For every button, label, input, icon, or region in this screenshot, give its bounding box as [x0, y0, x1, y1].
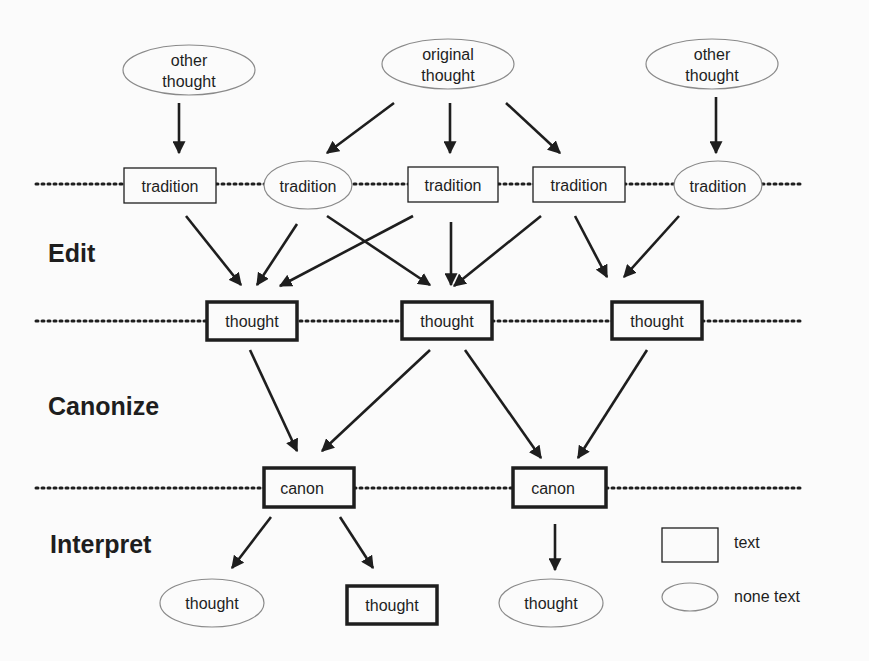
interpretation-node-3: thought	[499, 579, 603, 627]
interpretation-label: thought	[524, 595, 578, 612]
canon-label: canon	[280, 480, 324, 497]
source-label-line2: thought	[421, 67, 475, 84]
tradition-label: tradition	[551, 177, 608, 194]
canon-label: canon	[531, 480, 575, 497]
source-label-line2: thought	[162, 73, 216, 90]
arrow-icon	[322, 350, 430, 451]
source-label-line1: other	[694, 46, 731, 63]
arrow-icon	[327, 216, 430, 285]
arrow-icon	[465, 350, 541, 458]
tradition-node-3: tradition	[408, 167, 498, 202]
legend-rect-swatch	[662, 528, 718, 562]
thought-node-3: thought	[612, 302, 702, 339]
arrow-icon	[250, 350, 297, 451]
interpretation-label: thought	[185, 595, 239, 612]
canon-node-1: canon	[264, 468, 354, 507]
source-other-thought-left: other thought	[123, 45, 255, 95]
legend-ellipse-swatch	[662, 583, 718, 611]
arrow-icon	[624, 216, 679, 277]
thought-label: thought	[225, 313, 279, 330]
arrow-icon	[257, 224, 297, 285]
arrow-icon	[232, 517, 271, 568]
arrow-icon	[327, 103, 394, 153]
arrow-icon	[340, 517, 373, 568]
thought-label: thought	[630, 313, 684, 330]
legend-ellipse-label: none text	[734, 588, 800, 605]
source-label-line2: thought	[685, 67, 739, 84]
tradition-label: tradition	[690, 178, 747, 195]
source-label-line1: other	[171, 52, 208, 69]
tradition-node-4: tradition	[533, 167, 625, 202]
interpretation-node-1: thought	[160, 579, 264, 627]
stage-label-interpret: Interpret	[50, 530, 152, 558]
thought-node-2: thought	[402, 302, 492, 339]
arrow-icon	[186, 216, 241, 285]
source-label-line1: original	[422, 46, 474, 63]
arrow-icon	[575, 216, 607, 277]
tradition-label: tradition	[425, 177, 482, 194]
legend: text none text	[662, 528, 800, 611]
legend-rect-label: text	[734, 534, 760, 551]
arrow-icon	[578, 350, 647, 458]
canon-node-2: canon	[513, 468, 606, 507]
interpretation-node-2: thought	[347, 586, 437, 624]
interpretation-label: thought	[365, 597, 419, 614]
thought-node-1: thought	[207, 302, 297, 340]
stage-label-edit: Edit	[48, 239, 96, 267]
arrow-icon	[454, 216, 541, 286]
tradition-label: tradition	[280, 178, 337, 195]
stage-label-canonize: Canonize	[48, 392, 159, 420]
arrow-icon	[506, 103, 560, 153]
source-other-thought-right: other thought	[646, 39, 778, 89]
tradition-node-2: tradition	[264, 161, 352, 209]
arrow-icon	[280, 216, 413, 286]
tradition-node-1: tradition	[124, 168, 216, 203]
flow-diagram: Edit Canonize Interpret other thought or…	[0, 0, 869, 661]
source-original-thought: original thought	[382, 39, 514, 89]
tradition-label: tradition	[142, 178, 199, 195]
thought-label: thought	[420, 313, 474, 330]
tradition-node-5: tradition	[674, 161, 762, 209]
